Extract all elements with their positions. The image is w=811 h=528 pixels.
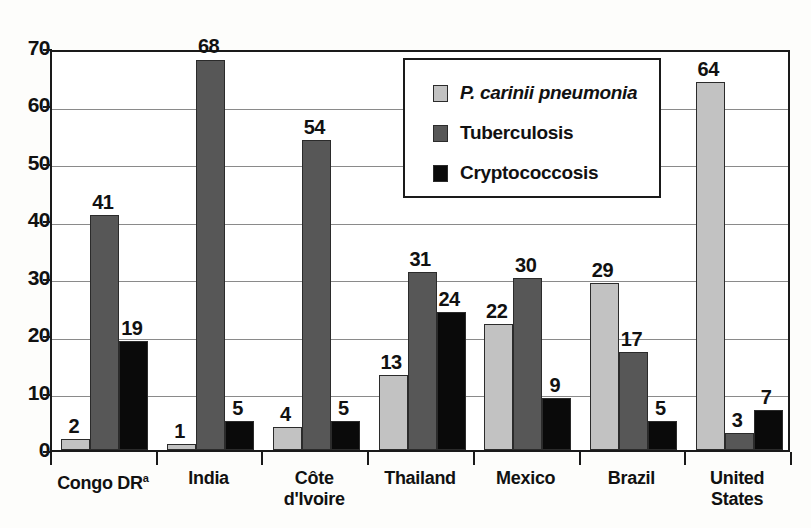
chart-legend: P. carinii pneumoniaTuberculosisCryptoco… bbox=[403, 58, 661, 198]
bar-value-label: 7 bbox=[742, 386, 791, 409]
legend-swatch bbox=[433, 125, 448, 142]
x-axis-category-label: Congo DRa bbox=[50, 468, 156, 494]
y-axis-tick-label: 40 bbox=[10, 208, 50, 232]
bar-value-label: 9 bbox=[530, 374, 579, 397]
x-axis-tick-mark bbox=[156, 452, 158, 465]
bar bbox=[590, 283, 619, 450]
footnote-marker: a bbox=[143, 472, 149, 484]
x-axis-tick-mark bbox=[579, 452, 581, 465]
bar bbox=[725, 433, 754, 450]
bar bbox=[542, 398, 571, 450]
bar bbox=[331, 421, 360, 450]
x-axis-tick-mark bbox=[790, 452, 792, 465]
x-axis-category-label: Brazil bbox=[579, 468, 685, 489]
bar-value-label: 24 bbox=[425, 288, 474, 311]
bar bbox=[437, 312, 466, 450]
bar-value-label: 1 bbox=[155, 420, 204, 443]
x-axis-label-line: States bbox=[684, 489, 790, 510]
chart-page: 010203040506070 P. carinii pneumoniaTube… bbox=[0, 0, 811, 528]
bar-value-label: 22 bbox=[472, 300, 521, 323]
bar bbox=[379, 375, 408, 450]
legend-swatch bbox=[433, 85, 448, 102]
x-axis-label-line: Côte bbox=[261, 468, 367, 489]
legend-swatch bbox=[433, 165, 448, 182]
bar-value-label: 13 bbox=[367, 351, 416, 374]
x-axis-label-line: India bbox=[156, 468, 262, 489]
y-axis-tick-label: 50 bbox=[10, 151, 50, 175]
legend-label: Tuberculosis bbox=[460, 122, 573, 144]
bar-value-label: 31 bbox=[396, 248, 445, 271]
bar bbox=[225, 421, 254, 450]
bar-value-label: 29 bbox=[578, 259, 627, 282]
x-axis-category-label: India bbox=[156, 468, 262, 489]
bar-value-label: 41 bbox=[78, 191, 127, 214]
x-axis-label-line: Mexico bbox=[473, 468, 579, 489]
legend-label: P. carinii pneumonia bbox=[460, 82, 637, 104]
x-axis-label-line: Brazil bbox=[579, 468, 685, 489]
bar bbox=[648, 421, 677, 450]
bar-value-label: 30 bbox=[501, 254, 550, 277]
bar-value-label: 17 bbox=[607, 328, 656, 351]
y-axis-tick-label: 60 bbox=[10, 93, 50, 117]
bar-value-label: 19 bbox=[107, 317, 156, 340]
x-axis-label-line: United bbox=[684, 468, 790, 489]
bar bbox=[61, 439, 90, 450]
x-axis-category-label: UnitedStates bbox=[684, 468, 790, 510]
y-axis-tick-label: 30 bbox=[10, 266, 50, 290]
bar-value-label: 54 bbox=[290, 116, 339, 139]
x-axis-tick-mark bbox=[261, 452, 263, 465]
x-axis-tick-mark bbox=[473, 452, 475, 465]
legend-label: Cryptococcosis bbox=[460, 162, 598, 184]
bar-value-label: 5 bbox=[636, 397, 685, 420]
bar bbox=[484, 324, 513, 450]
y-axis-tick-label: 10 bbox=[10, 381, 50, 405]
y-axis-tick-label: 70 bbox=[10, 36, 50, 60]
gridline bbox=[52, 224, 788, 225]
bar bbox=[273, 427, 302, 450]
x-axis-tick-mark bbox=[50, 452, 52, 465]
x-axis-label-line: Congo DRa bbox=[50, 468, 156, 494]
x-axis-category-label: Thailand bbox=[367, 468, 473, 489]
x-axis-label-line: d'Ivoire bbox=[261, 489, 367, 510]
bar-value-label: 5 bbox=[213, 397, 262, 420]
bar bbox=[696, 82, 725, 450]
x-axis-label-line: Thailand bbox=[367, 468, 473, 489]
y-axis-tick-label: 0 bbox=[10, 438, 50, 462]
y-axis: 010203040506070 bbox=[0, 0, 50, 528]
bar-value-label: 64 bbox=[684, 58, 733, 81]
bar-value-label: 4 bbox=[261, 403, 310, 426]
bar bbox=[119, 341, 148, 450]
legend-item: P. carinii pneumonia bbox=[433, 82, 637, 104]
bar-value-label: 2 bbox=[49, 415, 98, 438]
x-axis-category-label: Mexico bbox=[473, 468, 579, 489]
bar bbox=[167, 444, 196, 450]
bar-value-label: 68 bbox=[184, 35, 233, 58]
bar-value-label: 5 bbox=[319, 397, 368, 420]
bar-value-label: 3 bbox=[713, 409, 762, 432]
bar bbox=[196, 60, 225, 451]
x-axis-category-label: Côted'Ivoire bbox=[261, 468, 367, 510]
y-axis-tick-label: 20 bbox=[10, 323, 50, 347]
legend-item: Tuberculosis bbox=[433, 122, 573, 144]
x-axis-tick-mark bbox=[367, 452, 369, 465]
legend-item: Cryptococcosis bbox=[433, 162, 598, 184]
x-axis-tick-mark bbox=[684, 452, 686, 465]
